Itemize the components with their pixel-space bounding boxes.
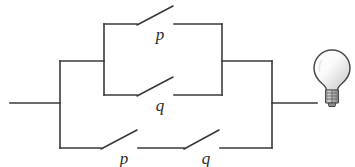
bulb-base-tip [328, 103, 336, 107]
circuit-schematic: p q p q [0, 0, 355, 167]
switch-top-p-label: p [155, 25, 165, 44]
switch-bottom-p-label: p [119, 149, 129, 167]
circuit-diagram-canvas: p q p q [0, 0, 355, 167]
light-bulb [314, 50, 350, 107]
switch-top-p-blade[interactable] [137, 6, 173, 25]
switch-middle-q-blade[interactable] [137, 77, 173, 96]
switch-bottom-p-blade[interactable] [101, 130, 137, 149]
switch-bottom-q-label: q [202, 149, 211, 167]
switch-middle-q-label: q [156, 96, 165, 115]
switch-bottom-q-blade[interactable] [184, 130, 219, 149]
